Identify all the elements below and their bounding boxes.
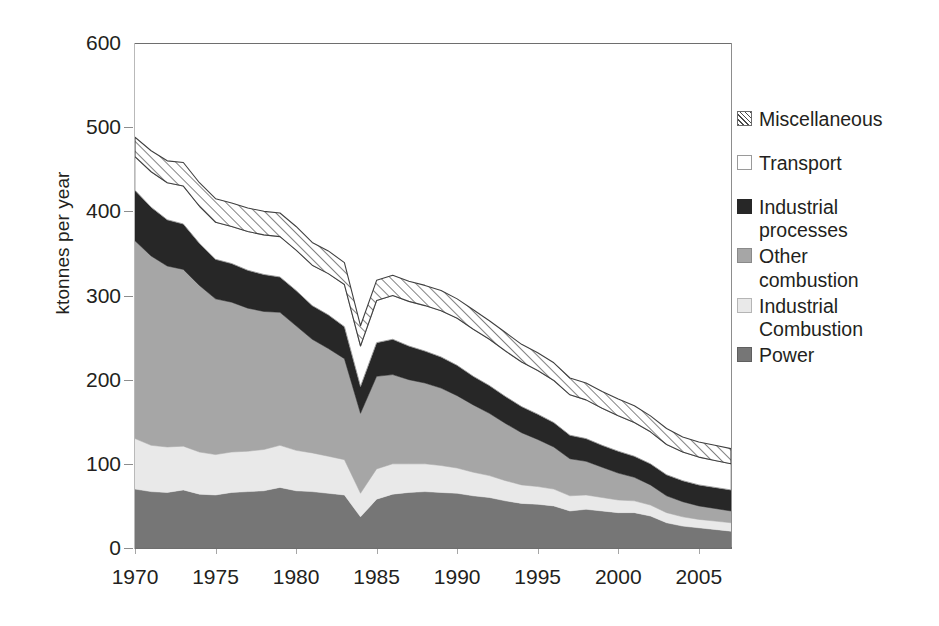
x-tickmark: [216, 548, 217, 554]
x-tickmark: [296, 548, 297, 554]
legend-item-label: Miscellaneous: [759, 108, 883, 132]
x-tickmark: [377, 548, 378, 554]
y-axis-tick-labels: 0100200300400500600: [45, 0, 121, 626]
x-tick-label: 2005: [659, 566, 739, 587]
y-tickmark: [124, 464, 133, 465]
power-swatch-icon: [737, 347, 752, 362]
x-tickmark: [538, 548, 539, 554]
x-tick-label: 1985: [337, 566, 417, 587]
y-tick-label: 500: [51, 116, 121, 137]
plot-right-border: [731, 43, 732, 549]
chart-canvas: ktonnes per year 0100200300400500600 197…: [0, 0, 939, 626]
legend-item-label: Power: [759, 344, 814, 368]
legend-item-indproc[interactable]: Industrial processes: [737, 196, 937, 244]
y-tick-label: 600: [51, 32, 121, 53]
legend-item-power[interactable]: Power: [737, 344, 937, 368]
x-tickmark: [457, 548, 458, 554]
y-tickmark: [124, 380, 133, 381]
legend-item-indcomb[interactable]: Industrial Combustion: [737, 295, 937, 343]
legend-item-label: Industrial processes: [759, 196, 848, 244]
x-tickmark: [699, 548, 700, 554]
y-tick-label: 100: [51, 453, 121, 474]
legend-item-misc[interactable]: Miscellaneous: [737, 108, 937, 132]
y-tickmark: [124, 548, 133, 549]
y-tickmark: [124, 211, 133, 212]
y-tick-label: 400: [51, 200, 121, 221]
legend-item-label: Transport: [759, 152, 842, 176]
x-tick-label: 1990: [417, 566, 497, 587]
y-tickmark: [124, 296, 133, 297]
x-tick-label: 1975: [176, 566, 256, 587]
legend-item-label: Industrial Combustion: [759, 295, 863, 343]
othercomb-swatch-icon: [737, 248, 752, 263]
x-tickmark: [618, 548, 619, 554]
y-tick-label: 300: [51, 285, 121, 306]
x-tick-label: 1970: [95, 566, 175, 587]
x-tick-label: 2000: [578, 566, 658, 587]
stacked-area-plot: [135, 43, 731, 548]
area-series-svg: [135, 43, 731, 548]
legend-item-othercomb[interactable]: Other combustion: [737, 245, 937, 293]
x-tick-label: 1995: [498, 566, 578, 587]
x-tick-label: 1980: [256, 566, 336, 587]
legend: MiscellaneousTransportIndustrial process…: [737, 108, 937, 368]
y-tick-label: 0: [51, 537, 121, 558]
y-tick-label: 200: [51, 369, 121, 390]
y-tickmark: [124, 127, 133, 128]
indcomb-swatch-icon: [737, 298, 752, 313]
indproc-swatch-icon: [737, 199, 752, 214]
legend-item-label: Other combustion: [759, 245, 859, 293]
misc-swatch-icon: [737, 111, 752, 126]
legend-item-transport[interactable]: Transport: [737, 152, 937, 176]
transport-swatch-icon: [737, 155, 752, 170]
